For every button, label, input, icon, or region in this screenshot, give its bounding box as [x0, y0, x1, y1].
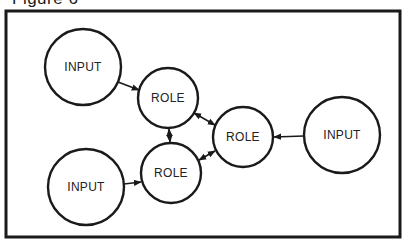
- node-input-right: INPUT: [304, 97, 380, 173]
- edge-role-top-to-role-bottom: [169, 129, 170, 142]
- node-label: ROLE: [154, 166, 188, 180]
- diagram-canvas: INPUT ROLE ROLE ROLE INPUT INPUT: [0, 0, 406, 243]
- node-role-right: ROLE: [213, 107, 273, 167]
- node-role-bottom: ROLE: [141, 143, 201, 203]
- node-label: INPUT: [64, 60, 102, 74]
- node-label: ROLE: [151, 91, 185, 105]
- node-input-top-left: INPUT: [45, 29, 121, 105]
- node-label: INPUT: [67, 180, 105, 194]
- node-label: INPUT: [323, 128, 361, 142]
- node-label: ROLE: [226, 130, 260, 144]
- edge-input-bottom-left-to-role-bottom: [124, 182, 141, 184]
- edge-input-right-to-role-right: [274, 136, 304, 137]
- node-role-top: ROLE: [138, 68, 198, 128]
- edge-role-top-to-role-right: [194, 113, 215, 125]
- edge-input-top-left-to-role-top: [118, 82, 139, 90]
- edge-role-right-to-role-bottom: [199, 151, 215, 160]
- node-input-bottom-left: INPUT: [48, 149, 124, 225]
